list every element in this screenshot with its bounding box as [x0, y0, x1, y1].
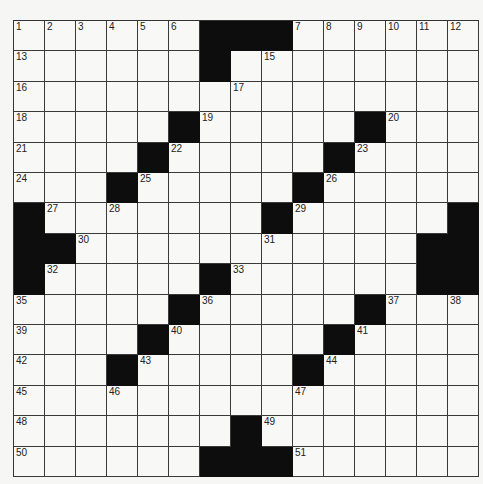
grid-cell[interactable]: [138, 203, 169, 233]
grid-cell[interactable]: [293, 234, 324, 264]
grid-cell[interactable]: 24: [14, 173, 45, 203]
grid-cell[interactable]: [169, 51, 200, 81]
grid-cell[interactable]: [200, 143, 231, 173]
grid-cell[interactable]: [324, 416, 355, 446]
grid-cell[interactable]: [76, 264, 107, 294]
grid-cell[interactable]: [448, 447, 479, 477]
grid-cell[interactable]: [324, 51, 355, 81]
grid-cell[interactable]: 37: [386, 295, 417, 325]
grid-cell[interactable]: 50: [14, 447, 45, 477]
grid-cell[interactable]: 18: [14, 112, 45, 142]
grid-cell[interactable]: [169, 173, 200, 203]
grid-cell[interactable]: 8: [324, 21, 355, 51]
grid-cell[interactable]: [386, 264, 417, 294]
grid-cell[interactable]: [355, 82, 386, 112]
grid-cell[interactable]: [45, 416, 76, 446]
grid-cell[interactable]: [107, 234, 138, 264]
grid-cell[interactable]: 3: [76, 21, 107, 51]
grid-cell[interactable]: 16: [14, 82, 45, 112]
grid-cell[interactable]: [138, 386, 169, 416]
grid-cell[interactable]: [231, 143, 262, 173]
grid-cell[interactable]: [107, 264, 138, 294]
grid-cell[interactable]: [76, 447, 107, 477]
grid-cell[interactable]: 7: [293, 21, 324, 51]
grid-cell[interactable]: [231, 173, 262, 203]
grid-cell[interactable]: 36: [200, 295, 231, 325]
grid-cell[interactable]: 21: [14, 143, 45, 173]
grid-cell[interactable]: [200, 82, 231, 112]
grid-cell[interactable]: 4: [107, 21, 138, 51]
grid-cell[interactable]: 48: [14, 416, 45, 446]
grid-cell[interactable]: [200, 355, 231, 385]
grid-cell[interactable]: [76, 386, 107, 416]
grid-cell[interactable]: 41: [355, 325, 386, 355]
grid-cell[interactable]: [324, 386, 355, 416]
grid-cell[interactable]: [417, 355, 448, 385]
grid-cell[interactable]: [45, 447, 76, 477]
grid-cell[interactable]: [293, 264, 324, 294]
grid-cell[interactable]: [386, 325, 417, 355]
grid-cell[interactable]: [262, 264, 293, 294]
grid-cell[interactable]: [293, 295, 324, 325]
grid-cell[interactable]: [262, 355, 293, 385]
grid-cell[interactable]: [262, 325, 293, 355]
grid-cell[interactable]: [262, 112, 293, 142]
grid-cell[interactable]: 12: [448, 21, 479, 51]
grid-cell[interactable]: [355, 416, 386, 446]
grid-cell[interactable]: 10: [386, 21, 417, 51]
grid-cell[interactable]: [386, 416, 417, 446]
grid-cell[interactable]: [231, 325, 262, 355]
grid-cell[interactable]: [262, 143, 293, 173]
grid-cell[interactable]: [231, 234, 262, 264]
grid-cell[interactable]: [76, 416, 107, 446]
grid-cell[interactable]: [293, 82, 324, 112]
grid-cell[interactable]: 23: [355, 143, 386, 173]
grid-cell[interactable]: 29: [293, 203, 324, 233]
grid-cell[interactable]: [138, 234, 169, 264]
grid-cell[interactable]: [448, 143, 479, 173]
grid-cell[interactable]: [107, 416, 138, 446]
grid-cell[interactable]: [324, 295, 355, 325]
grid-cell[interactable]: [45, 143, 76, 173]
grid-cell[interactable]: [293, 416, 324, 446]
grid-cell[interactable]: [448, 82, 479, 112]
grid-cell[interactable]: [169, 447, 200, 477]
grid-cell[interactable]: [386, 447, 417, 477]
grid-cell[interactable]: [169, 386, 200, 416]
grid-cell[interactable]: [200, 173, 231, 203]
grid-cell[interactable]: [355, 386, 386, 416]
grid-cell[interactable]: 13: [14, 51, 45, 81]
grid-cell[interactable]: [107, 143, 138, 173]
grid-cell[interactable]: [231, 386, 262, 416]
grid-cell[interactable]: [417, 416, 448, 446]
grid-cell[interactable]: [138, 295, 169, 325]
grid-cell[interactable]: [293, 325, 324, 355]
grid-cell[interactable]: [200, 386, 231, 416]
grid-cell[interactable]: 46: [107, 386, 138, 416]
grid-cell[interactable]: [76, 173, 107, 203]
grid-cell[interactable]: [138, 51, 169, 81]
grid-cell[interactable]: [231, 355, 262, 385]
grid-cell[interactable]: [386, 143, 417, 173]
grid-cell[interactable]: [262, 295, 293, 325]
grid-cell[interactable]: [138, 264, 169, 294]
grid-cell[interactable]: [231, 295, 262, 325]
grid-cell[interactable]: [355, 203, 386, 233]
grid-cell[interactable]: [417, 386, 448, 416]
grid-cell[interactable]: [355, 355, 386, 385]
grid-cell[interactable]: [45, 295, 76, 325]
grid-cell[interactable]: [448, 173, 479, 203]
grid-cell[interactable]: [355, 173, 386, 203]
grid-cell[interactable]: 43: [138, 355, 169, 385]
grid-cell[interactable]: [169, 416, 200, 446]
grid-cell[interactable]: [355, 264, 386, 294]
grid-cell[interactable]: [231, 51, 262, 81]
grid-cell[interactable]: [200, 416, 231, 446]
grid-cell[interactable]: 28: [107, 203, 138, 233]
grid-cell[interactable]: [417, 173, 448, 203]
grid-cell[interactable]: [355, 51, 386, 81]
grid-cell[interactable]: [417, 325, 448, 355]
grid-cell[interactable]: [417, 447, 448, 477]
grid-cell[interactable]: 33: [231, 264, 262, 294]
grid-cell[interactable]: [386, 82, 417, 112]
